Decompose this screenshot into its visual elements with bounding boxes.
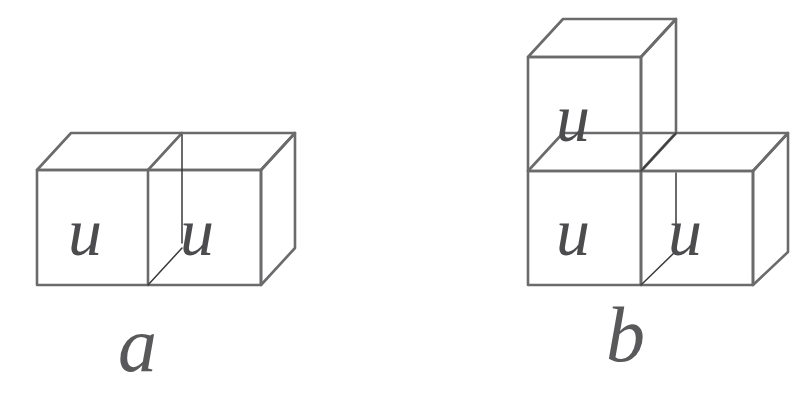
figure-b-bottom-left-top-strip: [528, 133, 676, 171]
figure-b-upper-right-face: [641, 19, 676, 171]
figure-b-face-letter-bottom-right: u: [668, 198, 702, 266]
figure-a-hidden-diagonal: [148, 248, 182, 285]
figure-a-divider-top: [148, 133, 182, 170]
figure-b-bottom-right-right-face: [753, 133, 788, 285]
figure-b-face-letter-bottom-left: u: [556, 198, 590, 266]
figure-a-caption: a: [118, 306, 157, 384]
figure-a-right-face: [261, 133, 295, 285]
figure-b-bottom-right-top-face: [641, 133, 788, 171]
figure-b-upper-top-face: [528, 19, 676, 57]
figure-b-face-letter-top: u: [556, 84, 590, 152]
figure-b-hidden-diagonal-top: [641, 133, 676, 171]
figure-a-face-letter-2: u: [180, 198, 214, 266]
figure-b-caption: b: [606, 296, 645, 374]
figure-a-hidden-edges: [148, 135, 182, 285]
figure-a-face-letter-1: u: [68, 198, 102, 266]
